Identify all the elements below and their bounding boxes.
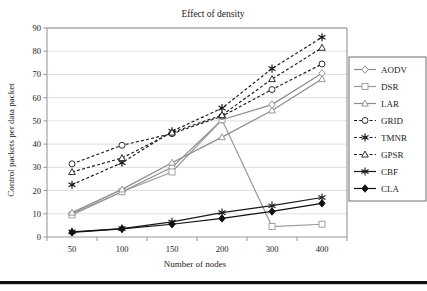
x-tick-label-100: 100 bbox=[116, 244, 129, 254]
marker-circle bbox=[319, 61, 325, 67]
marker-asterisk-core bbox=[364, 136, 367, 139]
legend-label-GRID: GRID bbox=[381, 116, 403, 126]
legend-label-LAR: LAR bbox=[381, 99, 399, 109]
y-tick-label-90: 90 bbox=[33, 23, 42, 33]
chart-title: Effect of density bbox=[181, 9, 244, 19]
page-bottom-rule bbox=[0, 281, 427, 284]
y-tick-label-60: 60 bbox=[33, 93, 42, 103]
x-tick-label-400: 400 bbox=[316, 244, 329, 254]
x-tick-label-150: 150 bbox=[166, 244, 179, 254]
marker-circle bbox=[362, 118, 368, 124]
y-tick-label-30: 30 bbox=[33, 162, 42, 172]
marker-square bbox=[269, 224, 275, 230]
x-tick-label-50: 50 bbox=[68, 244, 77, 254]
legend-box bbox=[349, 57, 426, 201]
marker-asterisk-core bbox=[121, 161, 124, 164]
legend-label-CBF: CBF bbox=[381, 167, 398, 177]
y-tick-label-70: 70 bbox=[33, 69, 42, 79]
y-tick-label-40: 40 bbox=[33, 139, 42, 149]
marker-asterisk-core bbox=[271, 67, 274, 70]
marker-square bbox=[362, 84, 368, 90]
marker-asterisk-core bbox=[71, 183, 74, 186]
marker-circle bbox=[269, 87, 275, 93]
y-tick-label-10: 10 bbox=[33, 209, 42, 219]
marker-circle bbox=[362, 118, 368, 124]
marker-circle bbox=[69, 161, 75, 167]
marker-square bbox=[319, 221, 325, 227]
marker-circle bbox=[319, 61, 325, 67]
y-axis-label: Control packets per data packet bbox=[6, 83, 16, 197]
y-tick-label-0: 0 bbox=[37, 232, 41, 242]
x-axis-label: Number of nodes bbox=[164, 259, 227, 269]
marker-circle bbox=[69, 161, 75, 167]
y-tick-label-80: 80 bbox=[33, 46, 42, 56]
legend-label-GPSR: GPSR bbox=[381, 150, 404, 160]
y-tick-label-50: 50 bbox=[33, 116, 42, 126]
density-line-chart: 0102030405060708090 50100150200300400 Ef… bbox=[0, 0, 427, 291]
marker-asterisk-core bbox=[221, 107, 224, 110]
marker-square bbox=[319, 221, 325, 227]
marker-circle bbox=[269, 87, 275, 93]
x-tick-label-300: 300 bbox=[266, 244, 279, 254]
marker-square bbox=[169, 169, 175, 175]
legend-label-AODV: AODV bbox=[381, 65, 407, 75]
y-tick-label-20: 20 bbox=[33, 186, 42, 196]
marker-circle bbox=[119, 142, 125, 148]
marker-square bbox=[169, 169, 175, 175]
marker-asterisk-core bbox=[321, 36, 324, 39]
legend-label-CLA: CLA bbox=[381, 184, 400, 194]
marker-square bbox=[269, 224, 275, 230]
x-tick-label-200: 200 bbox=[216, 244, 229, 254]
marker-square bbox=[362, 84, 368, 90]
chart-figure: 0102030405060708090 50100150200300400 Ef… bbox=[0, 0, 427, 291]
legend-label-TMNR: TMNR bbox=[381, 133, 407, 143]
marker-circle bbox=[119, 142, 125, 148]
legend-label-DSR: DSR bbox=[381, 82, 399, 92]
chart-legend: AODVDSRLARGRIDTMNRGPSRCBFCLA bbox=[349, 57, 426, 201]
